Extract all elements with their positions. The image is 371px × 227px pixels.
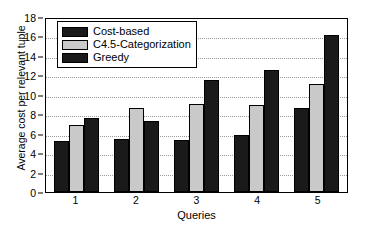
y-axis-tick-label: 6 [30,129,36,140]
legend-swatch [62,53,88,63]
y-axis-tick-mark [38,37,43,38]
bar [234,135,249,192]
y-axis-tick-label: 4 [30,149,36,160]
y-axis-tick-label: 14 [24,52,36,63]
legend-label: C4.5-Categorization [93,39,191,50]
bar [309,84,324,192]
y-axis-tick-label: 8 [30,110,36,121]
y-axis-tick-label: 16 [24,32,36,43]
y-axis-tick-mark [38,115,43,116]
bar [174,140,189,192]
bar-group [227,19,287,192]
y-axis-tick-labels: 024681012141618 [0,18,43,193]
y-axis-tick-mark [38,134,43,135]
bar [69,125,84,192]
y-axis-tick-mark [38,18,43,19]
bar-group [287,19,347,192]
legend-swatch [62,40,88,50]
y-axis-tick-label: 12 [24,71,36,82]
bar [264,70,279,192]
y-axis-tick-mark [38,56,43,57]
y-axis-tick-mark [38,95,43,96]
y-axis-tick-label: 2 [30,168,36,179]
y-axis-tick-mark [38,193,43,194]
y-axis-tick-label: 0 [30,188,36,199]
legend: Cost-basedC4.5-CategorizationGreedy [57,21,197,68]
bar [294,108,309,192]
bar [54,141,69,192]
bar-chart-figure: Average cost per relevant tuple 02468101… [0,0,371,227]
legend-label: Greedy [93,52,129,63]
y-axis-tick-label: 18 [24,13,36,24]
y-axis-tick-mark [38,154,43,155]
legend-label: Cost-based [93,26,149,37]
bar [189,104,204,192]
x-axis-label: Queries [45,209,348,221]
bar [129,108,144,192]
y-axis-tick-mark [38,173,43,174]
bar [324,35,339,193]
bar [144,121,159,192]
bar [249,105,264,192]
legend-swatch [62,27,88,37]
y-axis-tick-mark [38,76,43,77]
legend-item: Greedy [62,51,191,64]
bar [114,139,129,192]
bar [84,118,99,192]
legend-item: C4.5-Categorization [62,38,191,51]
y-axis-tick-label: 10 [24,91,36,102]
legend-item: Cost-based [62,25,191,38]
bar [204,80,219,192]
